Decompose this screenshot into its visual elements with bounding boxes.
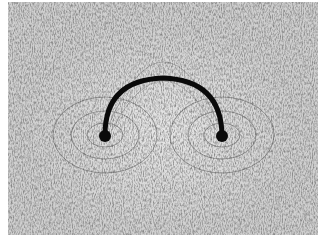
iron-filings-photo	[8, 2, 318, 235]
left-pole	[99, 130, 111, 142]
filings-texture	[8, 2, 318, 235]
right-pole	[216, 130, 228, 142]
field-pattern-graphic	[8, 2, 318, 235]
